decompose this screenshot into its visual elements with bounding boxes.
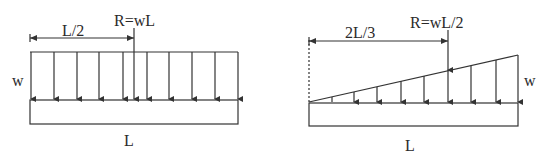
beam-load-diagrams: L/2 R=wL w L 2L/3 R=wL/2 w L — [0, 0, 543, 163]
beam-left — [30, 100, 238, 124]
distance-label-left: L/2 — [62, 22, 84, 39]
length-label-right: L — [405, 137, 415, 154]
intensity-label-left: w — [12, 72, 24, 89]
distance-label-right: 2L/3 — [345, 24, 375, 41]
triangular-load-diagram — [309, 30, 518, 126]
resultant-label-right: R=wL/2 — [410, 14, 463, 31]
length-label-left: L — [124, 132, 134, 149]
resultant-label-left: R=wL — [114, 12, 155, 29]
triangular-load-arrows — [354, 55, 518, 102]
load-slope-line — [309, 55, 518, 102]
intensity-label-right: w — [524, 72, 536, 89]
beam-right — [309, 103, 518, 126]
uniform-load-diagram — [30, 28, 238, 124]
